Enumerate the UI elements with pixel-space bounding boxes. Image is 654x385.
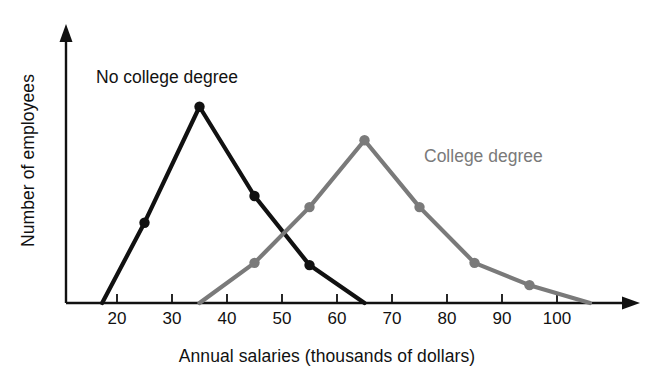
x-axis-ticks [117, 294, 557, 303]
data-point-marker [194, 102, 204, 112]
x-axis-arrow-icon [622, 297, 640, 310]
x-tick-label: 100 [535, 309, 579, 329]
x-axis-title: Annual salaries (thousands of dollars) [0, 346, 654, 367]
data-point-marker [249, 191, 259, 201]
data-point-marker [249, 258, 259, 268]
series-line-no-college-degree [102, 107, 364, 303]
x-tick-label: 40 [205, 309, 249, 329]
y-axis-title: Number of employees [18, 41, 39, 281]
x-tick-label: 80 [425, 309, 469, 329]
x-tick-label: 60 [315, 309, 359, 329]
data-point-marker [524, 280, 534, 290]
x-tick-label: 30 [150, 309, 194, 329]
data-series-group [102, 102, 590, 303]
data-point-marker [304, 260, 314, 270]
data-point-marker [139, 218, 149, 228]
chart-figure: 2030405060708090100 Annual salaries (tho… [0, 0, 654, 385]
x-tick-label: 90 [480, 309, 524, 329]
data-point-marker [469, 258, 479, 268]
series-label-no-college-degree: No college degree [96, 67, 238, 88]
x-tick-label: 20 [95, 309, 139, 329]
x-tick-label: 50 [260, 309, 304, 329]
series-label-college-degree: College degree [424, 146, 543, 167]
x-tick-label: 70 [370, 309, 414, 329]
data-point-marker [359, 135, 369, 145]
data-point-marker [304, 202, 314, 212]
data-point-marker [414, 202, 424, 212]
y-axis-arrow-icon [60, 24, 73, 42]
